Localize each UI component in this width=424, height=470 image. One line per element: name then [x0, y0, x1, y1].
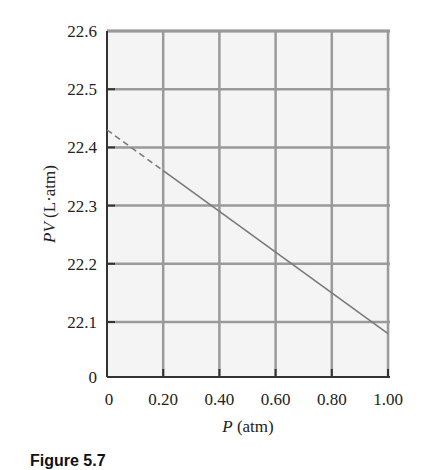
y-tick-label: 22.3	[67, 197, 97, 216]
y-tick-label: 22.5	[67, 80, 97, 99]
y-tick-label: 22.2	[67, 255, 97, 274]
x-tick-label: 0.80	[317, 390, 347, 409]
plot-background	[107, 31, 390, 377]
x-tick-label: 0.60	[261, 390, 291, 409]
y-tick-label: 22.1	[67, 313, 97, 332]
x-tick-label: 0.20	[148, 390, 178, 409]
y-tick-label: 22.4	[67, 138, 97, 157]
x-axis-label: P (atm)	[221, 417, 273, 436]
x-tick-label: 0	[105, 390, 114, 409]
y-tick-label: 22.6	[67, 22, 97, 41]
y-tick-label: 0	[89, 368, 98, 387]
y-axis-label: PV (L·atm)	[40, 165, 59, 244]
x-tick-label: 1.00	[373, 390, 403, 409]
figure-caption: Figure 5.7	[30, 452, 106, 470]
svg-text:PV (L·atm): PV (L·atm)	[40, 165, 59, 244]
x-tick-label: 0.40	[205, 390, 235, 409]
